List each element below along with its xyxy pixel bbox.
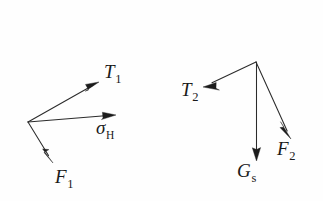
vector-label-f1-sub: 1 [67, 177, 73, 191]
vector-label-gs: Gs [237, 161, 256, 180]
vector-label-sigma-h-sub: H [106, 129, 114, 141]
vector-line-t2 [212, 62, 256, 83]
vector-label-sigma-h: σH [96, 118, 114, 137]
arrowhead-f1 [43, 149, 53, 163]
vector-label-gs-sub: s [251, 171, 256, 185]
vector-label-t1-base: T [104, 61, 115, 82]
vector-label-f2: F2 [277, 139, 295, 158]
arrowhead-t1 [85, 82, 99, 91]
vector-label-t2-sub: 2 [192, 90, 198, 104]
vector-line-t1 [28, 85, 93, 122]
vector-label-t2-base: T [181, 79, 192, 100]
arrowhead-f2 [280, 122, 291, 139]
vector-diagram-svg [0, 0, 323, 201]
arrowhead-t2 [203, 83, 219, 91]
vector-label-f1-base: F [55, 166, 67, 187]
vector-label-t1-sub: 1 [115, 72, 121, 86]
vector-label-f2-sub: 2 [289, 149, 295, 163]
vector-label-f1: F1 [55, 167, 73, 186]
vector-label-f2-base: F [277, 138, 289, 159]
vector-label-gs-base: G [237, 160, 251, 181]
figure-canvas: T1 σH F1 T2 Gs F2 [0, 0, 323, 201]
vector-label-t2: T2 [181, 80, 198, 99]
vector-line-f2 [256, 62, 287, 131]
vector-label-sigma-h-base: σ [96, 117, 106, 138]
arrowhead-gs [252, 148, 260, 161]
vector-label-t1: T1 [104, 62, 121, 81]
